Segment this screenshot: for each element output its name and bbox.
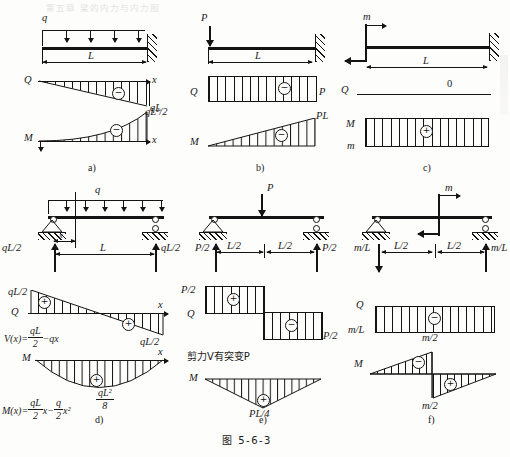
beam [42,47,148,50]
reaction-arrow-right [485,244,487,272]
ground-hatch-right [472,232,498,240]
load-top-line [42,30,145,31]
reaction-right-label: m/L [491,242,507,253]
ground-hatch-right [303,232,329,240]
span-dimension [43,62,146,63]
load-arrow [142,200,143,211]
load-arrow [90,30,91,42]
moment-value-label: qL²/2 [145,106,167,117]
reaction-arrow-left [54,244,56,272]
load-left-edge [48,200,49,214]
half-span-right-label: L/2 [447,240,461,251]
shear-value-left-label: P/2 [181,284,196,295]
panel-a-tag: a) [88,162,96,173]
span-label: L [255,50,261,61]
shear-sign-right-badge: + [122,318,135,331]
shear-symbol: Q [11,306,19,317]
moment-sign-badge: − [275,129,288,142]
couple-arrow-bottom [345,60,366,62]
x-dimension [54,241,75,242]
panel-b: P L Q − P M − PL b) [170,14,335,164]
shear-formula-lhs: V(x)= [4,333,28,344]
beam [372,216,492,219]
panel-d-load-label: q [95,184,100,195]
couple-arrow-bottom [418,233,439,235]
moment-symbol: M [22,352,31,363]
moment-f1-num: qL [28,398,43,410]
shear-value-label: 0 [447,78,452,89]
moment-peak-label: m/2 [422,400,438,411]
ground-hatch-left [362,232,390,240]
load-arrow [138,30,139,42]
reaction-arrow-right [155,244,157,272]
moment-symbol: M [354,358,363,369]
shear-diagram-area [208,76,317,102]
span-label: L [100,242,106,253]
span-dimension [56,254,154,255]
moment-symbol: M [189,372,198,383]
point-load-arrow [209,26,211,46]
span-label: L [88,50,94,61]
half-span-left-dimension [382,252,432,253]
moment-value-label: PL [316,110,328,121]
half-span-right-dimension [438,252,484,253]
load-arrow [161,200,162,211]
panel-e: P P/2 P/2 L/2 L/2 P/2 Q + − P/2 剪力V有突变P … [175,186,340,416]
ground-hatch-right [142,232,168,240]
shear-axis-label: x [152,74,157,85]
shear-jump-note: 剪力V有突变P [187,348,250,363]
shear-symbol: Q [356,299,364,310]
midspan-tick [264,244,265,258]
fixed-support-hatch [490,33,499,61]
moment-sign-badge: − [110,124,123,137]
half-span-right-label: L/2 [278,240,292,251]
moment-sign-left-badge: − [412,356,425,369]
shear-sign-left-badge: + [38,296,51,309]
shear-formula: V(x)=qL2−qx [4,326,59,349]
shear-formula-den: 2 [28,338,43,349]
moment-f1-tail: x− [43,405,54,416]
moment-f2-tail: x² [63,405,70,416]
moment-peak-den: 8 [96,400,114,411]
load-arrow [66,200,67,211]
moment-triangle-shape [208,118,318,148]
moment-diagram-shape [370,350,500,406]
moment-sign-badge: + [90,374,103,387]
reaction-left-label: qL/2 [2,242,21,253]
shear-value-left-label: qL/2 [8,286,27,297]
panel-f-tag: f) [428,414,435,425]
couple-arrow-top [439,195,460,196]
load-left-edge [42,30,43,46]
half-span-right-dimension [267,252,314,253]
moment-f2-den: 2 [54,410,63,421]
load-arrow [85,200,86,211]
shear-value-label: P [319,86,325,97]
midspan-tick [435,244,436,258]
moment-symbol: M [24,132,33,143]
shear-value-label: m/L [348,324,364,335]
panel-f: m m/L m/L L/2 L/2 Q − m/L m/2 M [340,186,510,416]
panel-d: q x qL/2 qL/2 L qL/2 Q [0,186,175,416]
panel-c: m L Q 0 M + m c) [335,14,510,164]
roller-wheel-right [313,225,320,232]
load-arrow [104,200,105,211]
panel-b-load-label: P [201,12,207,23]
panel-e-load-label: P [267,182,273,193]
half-span-left-label: L/2 [227,240,241,251]
load-arrow [66,30,67,42]
moment-f2-num: q [54,398,63,410]
span-dimension [209,62,312,63]
moment-parabola-shape [39,112,151,142]
couple-stem [438,194,440,236]
shear-sign-badge: − [278,82,291,95]
panel-a: q L Q x − qL M x [0,14,170,164]
reaction-right-label: P/2 [322,242,337,253]
moment-sign-badge: + [257,394,270,407]
shear-sign-badge: − [428,312,441,325]
end-reaction-arrow [40,142,41,151]
shear-symbol: Q [187,308,195,319]
roller-wheel-right [152,225,159,232]
moment-formula: M(x)=qL2x−q2x² [2,398,70,421]
shear-zero-line [357,94,491,95]
moment-axis-label: x [152,134,157,145]
